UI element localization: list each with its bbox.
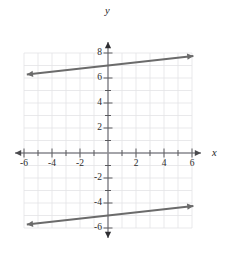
x-axis-arrow-left xyxy=(15,150,21,156)
coordinate-plane-figure: -6-4-22468642-2-4-6 x y xyxy=(0,0,225,261)
x-axis-arrow-right xyxy=(195,150,201,156)
y-tick-label: 4 xyxy=(97,98,102,108)
plot-svg xyxy=(0,0,225,261)
y-tick-label: -6 xyxy=(94,223,102,233)
y-tick-label: 6 xyxy=(97,73,102,83)
y-tick-label: 2 xyxy=(97,123,102,133)
x-tick-label: 2 xyxy=(134,159,139,169)
y-tick-label: -2 xyxy=(94,173,102,183)
x-tick-label: -6 xyxy=(20,159,28,169)
y-axis-arrow-up xyxy=(105,42,111,48)
x-tick-label: 6 xyxy=(190,159,195,169)
y-axis-label: y xyxy=(105,6,110,17)
y-axis-arrow-down xyxy=(105,232,111,238)
x-tick-label: 4 xyxy=(162,159,167,169)
x-tick-label: -4 xyxy=(48,159,56,169)
x-axis-label: x xyxy=(212,148,217,159)
y-tick-label: -4 xyxy=(94,198,102,208)
x-tick-label: -2 xyxy=(76,159,84,169)
y-tick-label: 8 xyxy=(97,48,102,58)
